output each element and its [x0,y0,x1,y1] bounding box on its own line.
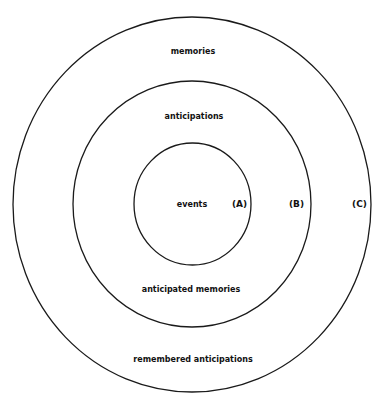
label-anticipations: anticipations [165,112,224,121]
tag-c: (C) [352,199,367,209]
label-memories: memories [171,47,216,56]
tag-a: (A) [232,199,247,209]
label-remembered-anticipations: remembered anticipations [133,355,253,364]
tag-b: (B) [289,199,304,209]
label-anticipated-memories: anticipated memories [142,285,241,294]
concentric-circles-diagram: memories anticipations events (A) (B) (C… [0,0,382,398]
label-events: events [177,200,208,209]
